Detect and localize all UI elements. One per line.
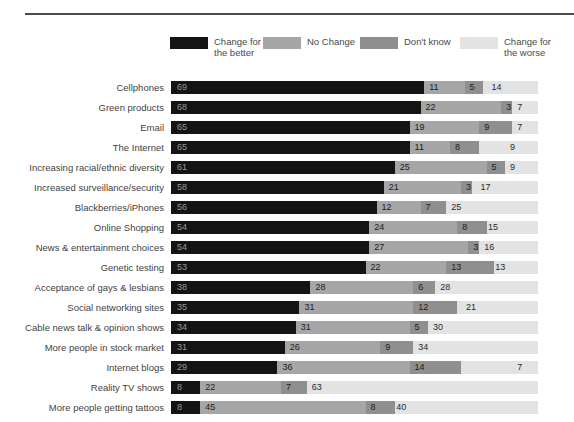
segment-nochange (299, 301, 413, 314)
value-label-better: 61 (177, 161, 187, 174)
value-label-worse: 14 (492, 81, 502, 94)
chart-row: The Internet651189 (0, 137, 574, 157)
segment-dontknow (281, 381, 307, 394)
stacked-bar: 3431530 (171, 321, 538, 334)
legend-item: No Change (263, 36, 355, 49)
chart-row: More people getting tattoos845840 (0, 397, 574, 417)
chart-legend: Change forthe betterNo ChangeDon't knowC… (0, 36, 574, 66)
chart-row: Blackberries/iPhones5612725 (0, 197, 574, 217)
value-label-better: 65 (177, 121, 187, 134)
value-label-nochange: 28 (315, 281, 325, 294)
segment-nochange (310, 281, 413, 294)
segment-better (171, 161, 395, 174)
category-label: Cellphones (0, 82, 171, 93)
value-label-dontknow: 13 (451, 261, 461, 274)
value-label-better: 54 (177, 241, 187, 254)
value-label-better: 58 (177, 181, 187, 194)
value-label-worse: 16 (484, 241, 494, 254)
stacked-bar: 3828628 (171, 281, 538, 294)
value-label-better: 68 (177, 101, 187, 114)
chart-row: Reality TV shows822763 (0, 377, 574, 397)
value-label-dontknow: 8 (455, 141, 460, 154)
value-label-dontknow: 5 (415, 321, 420, 334)
stacked-bar: 845840 (171, 401, 538, 414)
segment-nochange (277, 361, 409, 374)
segment-better (171, 281, 310, 294)
segment-better (171, 141, 410, 154)
segment-nochange (200, 401, 365, 414)
value-label-worse: 9 (510, 161, 515, 174)
legend-item: Change forthe better (170, 36, 261, 58)
value-label-worse: 21 (466, 301, 476, 314)
value-label-nochange: 31 (304, 301, 314, 314)
legend-item: Change forthe worse (460, 36, 551, 58)
stacked-bar: 53221313 (171, 261, 538, 274)
value-label-better: 29 (177, 361, 187, 374)
category-label: Internet blogs (0, 362, 171, 373)
category-label: The Internet (0, 142, 171, 153)
chart-row: More people in stock market3126934 (0, 337, 574, 357)
value-label-better: 56 (177, 201, 187, 214)
value-label-dontknow: 3 (473, 241, 478, 254)
segment-better (171, 321, 296, 334)
value-label-worse: 25 (451, 201, 461, 214)
value-label-nochange: 27 (374, 241, 384, 254)
category-label: News & entertainment choices (0, 242, 171, 253)
value-label-dontknow: 5 (470, 81, 475, 94)
category-label: Increased surveillance/security (0, 182, 171, 193)
value-label-worse: 34 (418, 341, 428, 354)
chart-row: Internet blogs2936147 (0, 357, 574, 377)
category-label: Genetic testing (0, 262, 171, 273)
stacked-bar: 5427316 (171, 241, 538, 254)
value-label-nochange: 36 (282, 361, 292, 374)
value-label-dontknow: 5 (492, 161, 497, 174)
value-label-worse: 13 (495, 261, 505, 274)
value-label-worse: 28 (440, 281, 450, 294)
value-label-dontknow: 7 (286, 381, 291, 394)
value-label-nochange: 12 (382, 201, 392, 214)
value-label-nochange: 11 (415, 141, 424, 154)
segment-better (171, 401, 200, 414)
legend-swatch (170, 37, 208, 49)
stacked-bar: 35311221 (171, 301, 538, 314)
segment-dontknow (421, 201, 447, 214)
value-label-worse: 9 (510, 141, 515, 154)
segment-better (171, 241, 369, 254)
category-label: Email (0, 122, 171, 133)
value-label-worse: 63 (312, 381, 322, 394)
top-divider-rule (25, 13, 574, 15)
chart-rows: Cellphones6911514Green products682237Ema… (0, 77, 574, 417)
value-label-nochange: 26 (290, 341, 300, 354)
segment-better (171, 81, 424, 94)
chart-row: Cellphones6911514 (0, 77, 574, 97)
category-label: Blackberries/iPhones (0, 202, 171, 213)
value-label-nochange: 21 (389, 181, 399, 194)
segment-better (171, 121, 410, 134)
value-label-worse: 17 (481, 181, 491, 194)
value-label-nochange: 11 (429, 81, 438, 94)
stacked-bar: 3126934 (171, 341, 538, 354)
value-label-worse: 15 (488, 221, 498, 234)
category-label: More people getting tattoos (0, 402, 171, 413)
value-label-better: 65 (177, 141, 187, 154)
value-label-dontknow: 8 (371, 401, 376, 414)
category-label: Increasing racial/ethnic diversity (0, 162, 171, 173)
segment-better (171, 261, 366, 274)
chart-row: Online Shopping5424815 (0, 217, 574, 237)
legend-label: Change forthe worse (504, 36, 551, 58)
value-label-better: 38 (177, 281, 187, 294)
value-label-dontknow: 6 (418, 281, 423, 294)
value-label-worse: 7 (517, 361, 522, 374)
legend-item: Don't know (360, 36, 451, 49)
category-label: More people in stock market (0, 342, 171, 353)
chart-row: News & entertainment choices5427316 (0, 237, 574, 257)
category-label: Cable news talk & opinion shows (0, 322, 171, 333)
stacked-bar: 2936147 (171, 361, 538, 374)
value-label-better: 35 (177, 301, 187, 314)
segment-nochange (296, 321, 410, 334)
stacked-bar: 651189 (171, 141, 538, 154)
value-label-better: 69 (177, 81, 187, 94)
chart-row: Genetic testing53221313 (0, 257, 574, 277)
value-label-dontknow: 7 (426, 201, 431, 214)
legend-label: No Change (307, 36, 355, 47)
